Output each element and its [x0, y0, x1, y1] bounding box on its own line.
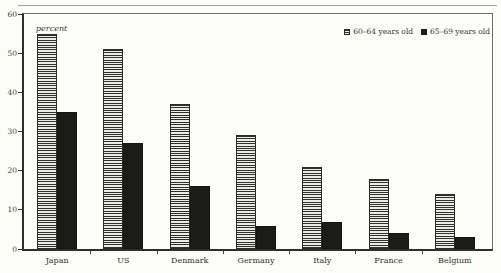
y-tick-10: [18, 209, 22, 210]
x-label-us: US: [90, 256, 156, 265]
bar-france-65-69-years-old: [389, 233, 409, 249]
bar-italy-60-64-years-old: [302, 167, 322, 249]
bar-germany-60-64-years-old: [236, 135, 256, 249]
y-tick-label-30: 30: [0, 127, 17, 136]
figure-employment-by-age-chart: percent 60–64 years old65–69 years old 0…: [0, 0, 501, 273]
y-tick-label-20: 20: [0, 166, 17, 175]
x-boundary-tick-6: [422, 251, 423, 254]
bar-japan-65-69-years-old: [57, 112, 77, 249]
y-tick-label-40: 40: [0, 88, 17, 97]
x-label-japan: Japan: [24, 256, 90, 265]
legend: 60–64 years old65–69 years old: [344, 27, 490, 36]
x-label-france: France: [355, 256, 421, 265]
x-boundary-tick-3: [223, 251, 224, 254]
y-tick-60: [18, 14, 22, 15]
plot-area: percent: [22, 13, 493, 251]
y-tick-20: [18, 170, 22, 171]
x-label-belgium: Belgium: [422, 256, 488, 265]
bar-japan-60-64-years-old: [37, 34, 57, 249]
bar-germany-65-69-years-old: [256, 226, 276, 250]
solid-bar-swatch-icon: [421, 29, 427, 35]
y-tick-30: [18, 131, 22, 132]
x-label-denmark: Denmark: [157, 256, 223, 265]
bar-denmark-60-64-years-old: [170, 104, 190, 249]
y-tick-0: [18, 249, 22, 250]
bar-us-65-69-years-old: [123, 143, 143, 249]
x-label-germany: Germany: [223, 256, 289, 265]
bar-belgium-65-69-years-old: [455, 237, 475, 249]
y-tick-label-50: 50: [0, 49, 17, 58]
x-boundary-tick-4: [289, 251, 290, 254]
bars-container: [24, 14, 492, 249]
top-rule-line: [18, 5, 497, 6]
x-boundary-tick-2: [157, 251, 158, 254]
y-tick-50: [18, 53, 22, 54]
bar-us-60-64-years-old: [103, 49, 123, 249]
bar-belgium-60-64-years-old: [435, 194, 455, 249]
bar-italy-65-69-years-old: [322, 222, 342, 249]
y-tick-label-60: 60: [0, 10, 17, 19]
legend-item-65-69-years-old: 65–69 years old: [421, 27, 490, 36]
y-tick-label-0: 0: [0, 245, 17, 254]
x-label-italy: Italy: [289, 256, 355, 265]
bar-france-60-64-years-old: [369, 179, 389, 250]
legend-label-65-69-years-old: 65–69 years old: [430, 27, 490, 36]
bar-denmark-65-69-years-old: [190, 186, 210, 249]
y-tick-label-10: 10: [0, 205, 17, 214]
legend-item-60-64-years-old: 60–64 years old: [344, 27, 413, 36]
striped-bar-swatch-icon: [344, 29, 350, 35]
legend-label-60-64-years-old: 60–64 years old: [353, 27, 413, 36]
x-boundary-tick-5: [355, 251, 356, 254]
y-tick-40: [18, 92, 22, 93]
x-boundary-tick-1: [90, 251, 91, 254]
